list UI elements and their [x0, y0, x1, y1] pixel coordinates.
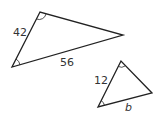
angle-mark-top	[119, 66, 126, 67]
side-label-b: b	[125, 101, 132, 114]
angle-mark-bottom-left	[16, 59, 20, 65]
side-label-42: 42	[13, 26, 27, 39]
small-triangle: 12 b	[94, 61, 152, 114]
similar-triangles-diagram: 42 56 12 b	[0, 0, 161, 118]
angle-mark-bottom-left	[101, 101, 105, 106]
side-label-12: 12	[94, 74, 108, 87]
large-triangle: 42 56	[12, 12, 123, 69]
side-label-56: 56	[60, 56, 74, 69]
